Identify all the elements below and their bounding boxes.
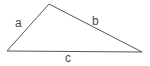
side-label-a: a	[15, 17, 22, 29]
side-label-b: b	[92, 15, 99, 27]
triangle-outline	[7, 4, 142, 52]
triangle-shape	[0, 0, 150, 66]
triangle-diagram: a b c	[0, 0, 150, 66]
side-label-c: c	[65, 52, 71, 64]
